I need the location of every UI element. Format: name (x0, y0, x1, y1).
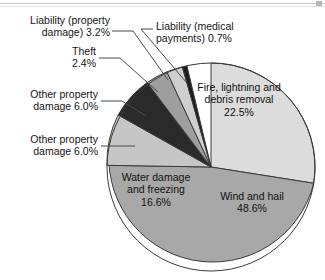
slice-label-water-line1: Water damage (106, 171, 206, 183)
slice-label-fire-line1: Fire, lightning and (176, 81, 302, 93)
slice-label-fire-line2: debris removal (176, 93, 302, 105)
callout-other-property-damage-lower-line1: Other property (2, 133, 98, 145)
callout-other-property-damage-upper-line2: damage 6.0% (2, 100, 98, 112)
callout-liability-medical-payments: Liability (medical payments) 0.7% (156, 20, 276, 45)
callout-other-property-damage-upper: Other property damage 6.0% (2, 88, 98, 113)
callout-liability-medical-payments-line2: payments) 0.7% (156, 32, 276, 44)
slice-label-wind-value: 48.6% (200, 202, 304, 214)
callout-other-property-damage-upper-line1: Other property (2, 88, 98, 100)
callout-liability-property-damage-line1: Liability (property (2, 14, 110, 26)
callout-other-property-damage-lower-line2: damage 6.0% (2, 145, 98, 157)
callout-liability-property-damage-line2: damage) 3.2% (2, 26, 110, 38)
slice-label-wind-line1: Wind and hail (200, 190, 304, 202)
callout-liability-property-damage: Liability (property damage) 3.2% (2, 14, 110, 39)
slice-label-water-line2: and freezing (106, 183, 206, 195)
slice-label-fire-lightning-debris-removal: Fire, lightning and debris removal 22.5% (176, 81, 302, 118)
pie-chart-figure: Liability (property damage) 3.2% Liabili… (0, 0, 325, 280)
callout-theft-line2: 2.4% (10, 57, 96, 69)
callout-theft: Theft 2.4% (10, 45, 96, 70)
slice-label-wind-and-hail: Wind and hail 48.6% (200, 190, 304, 215)
slice-label-water-value: 16.6% (106, 196, 206, 208)
callout-liability-medical-payments-line1: Liability (medical (156, 20, 276, 32)
callout-theft-line1: Theft (10, 45, 96, 57)
slice-label-water-damage-and-freezing: Water damage and freezing 16.6% (106, 171, 206, 208)
callout-other-property-damage-lower: Other property damage 6.0% (2, 133, 98, 158)
slice-label-fire-value: 22.5% (176, 106, 302, 118)
